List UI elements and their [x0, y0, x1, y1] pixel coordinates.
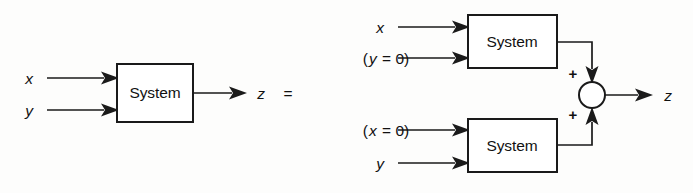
- block-diagram-figure: x y System z = x (y = 0) System (x = 0) …: [0, 0, 693, 193]
- left-input-y-label: y: [24, 102, 34, 119]
- right-bottom-input-x0-label: (x = 0): [363, 122, 409, 139]
- var-y: y: [368, 50, 378, 67]
- right-top-input-x-wire: [398, 21, 470, 34]
- right-output-wire: [605, 89, 653, 102]
- equals-zero-close: = 0): [378, 50, 409, 67]
- right-top-input-x-label: x: [375, 19, 385, 36]
- left-system-block-label: System: [129, 84, 180, 101]
- right-bottom-input-y-wire: [398, 157, 470, 170]
- right-bottom-input-y-label: y: [375, 155, 385, 172]
- right-top-input-y0-label: (y = 0): [363, 50, 409, 67]
- right-output-z-label: z: [663, 87, 672, 104]
- summing-junction-plus-top: +: [569, 65, 578, 82]
- var-x: x: [368, 122, 378, 139]
- right-top-output-wire: [557, 42, 599, 84]
- equals-zero-close: = 0): [378, 122, 409, 139]
- equation-operator: =: [283, 85, 292, 102]
- summing-junction: [579, 82, 605, 108]
- left-output-wire: [193, 87, 247, 100]
- diagram-canvas: x y System z = x (y = 0) System (x = 0) …: [0, 0, 693, 193]
- left-input-y-wire: [47, 104, 119, 117]
- right-bottom-system-block-label: System: [486, 137, 537, 154]
- left-input-x-wire: [47, 72, 119, 85]
- right-top-system-block-label: System: [486, 33, 537, 50]
- paren-open: (: [363, 122, 369, 139]
- left-output-z-label: z: [256, 85, 265, 102]
- left-input-x-label: x: [24, 70, 34, 87]
- right-bottom-output-wire: [557, 107, 599, 145]
- paren-open: (: [363, 50, 369, 67]
- summing-junction-plus-bottom: +: [569, 106, 578, 123]
